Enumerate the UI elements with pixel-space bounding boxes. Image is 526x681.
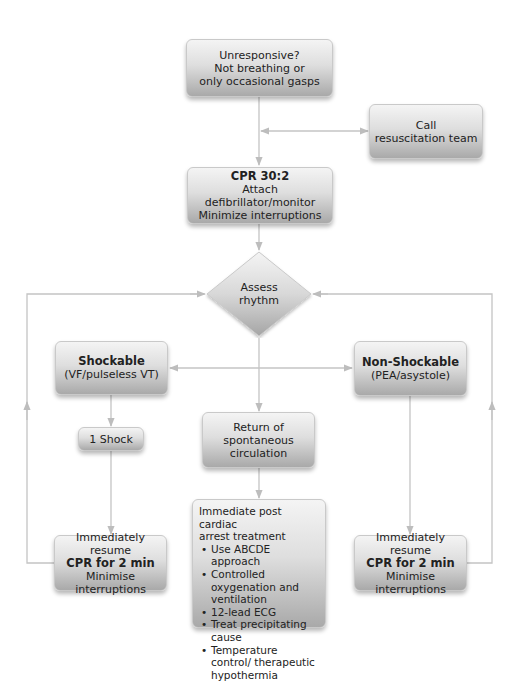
node-unresponsive: Unresponsive? Not breathing or only occa… [186,39,333,97]
post-arrest-item: Temperature control/ therapeutic hypothe… [199,644,319,681]
node-cpr: CPR 30:2 Attach defibrillator/monitor Mi… [187,167,333,224]
post-arrest-item: Use ABCDE approach [199,543,319,568]
node-assess-line1: Assess [240,281,277,294]
node-rosc-line1: Return of [233,421,284,434]
node-resume-left-title: CPR for 2 min [66,557,154,570]
post-arrest-item: Controlled oxygenation and ventilation [199,568,319,606]
node-unresponsive-line3: only occasional gasps [199,75,319,88]
node-assess-line2: rhythm [239,294,279,307]
node-resume-left-line1: Immediately resume [55,531,166,557]
node-non-shockable: Non-Shockable (PEA/asystole) [354,341,467,396]
node-rosc-line3: circulation [230,447,287,460]
node-resume-left-line2: Minimise interruptions [55,570,166,596]
post-arrest-item: Treat precipitating cause [199,618,319,643]
node-unresponsive-line1: Unresponsive? [219,49,299,62]
node-call-team-line1: Call [416,119,437,132]
node-post-arrest-heading1: Immediate post cardiac [199,505,319,530]
post-arrest-list: Use ABCDE approach Controlled oxygenatio… [199,543,319,681]
node-shockable-title: Shockable [78,355,145,368]
node-unresponsive-line2: Not breathing or [214,62,305,75]
node-cpr-line1: Attach defibrillator/monitor [188,183,332,209]
node-non-shockable-line1: (PEA/asystole) [371,369,450,382]
post-arrest-item: 12-lead ECG [199,606,319,619]
node-cpr-line2: Minimize interruptions [198,209,321,222]
node-resume-right-line2: Minimise interruptions [355,570,466,596]
node-post-arrest: Immediate post cardiac arrest treatment … [192,499,326,628]
node-non-shockable-title: Non-Shockable [362,356,459,369]
node-resume-right-line1: Immediately resume [355,531,466,557]
node-one-shock: 1 Shock [78,427,144,451]
node-cpr-title: CPR 30:2 [231,170,289,183]
node-rosc-line2: spontaneous [223,434,294,447]
node-resume-cpr-left: Immediately resume CPR for 2 min Minimis… [54,535,167,591]
node-assess-rhythm: Assess rhythm [205,250,313,338]
right-loop-line [314,294,492,563]
node-shockable: Shockable (VF/pulseless VT) [55,341,168,395]
node-shockable-line1: (VF/pulseless VT) [64,368,159,381]
node-one-shock-label: 1 Shock [89,433,133,446]
node-call-team: Call resuscitation team [369,104,483,159]
node-resume-right-title: CPR for 2 min [366,557,454,570]
node-resume-cpr-right: Immediately resume CPR for 2 min Minimis… [354,535,467,591]
node-call-team-line2: resuscitation team [375,132,478,145]
node-rosc: Return of spontaneous circulation [202,412,315,468]
node-post-arrest-heading2: arrest treatment [199,530,286,543]
